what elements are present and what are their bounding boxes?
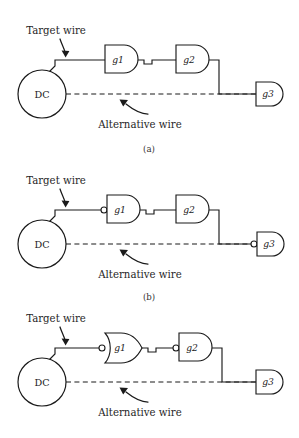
panel-b-dc-label: DC (34, 239, 49, 250)
panel-a: DC g1 g2 g3 Target wire Alternative wire (18, 25, 283, 154)
panel-c-dc-label: DC (34, 377, 49, 388)
panel-a-alternative-wire-arrow (126, 104, 148, 114)
panel-c-gate-g2-label: g2 (186, 342, 198, 353)
panel-b-alternative-wire-arrowhead (120, 250, 129, 257)
panel-b-gate-g3-label: g3 (263, 238, 275, 249)
panel-c-target-wire-label: Target wire (26, 313, 86, 324)
panel-b-gate-g3-input-bubble (251, 241, 257, 247)
panel-c-gate-g1-input-bubble (99, 345, 105, 351)
panel-a-gate-g1-label: g1 (112, 54, 124, 65)
figure-root: DC g1 g2 g3 Target wire Alternative wire (0, 0, 299, 438)
panel-a-wire-g2-g3 (209, 60, 256, 94)
panel-b-target-wire-label: Target wire (26, 175, 86, 186)
panel-b-gate-g2-label: g2 (183, 204, 195, 215)
panel-b-target-wire-arrow (60, 189, 65, 202)
panel-a-wire-g1-g2 (138, 60, 176, 64)
panel-c-gate-g2-input-bubble (173, 345, 179, 351)
panel-c-target-wire-arrow (60, 327, 65, 340)
panel-c-target-wire-arrowhead (62, 339, 70, 346)
panel-b-alternative-wire-arrow (126, 254, 148, 264)
panel-c-wire-g1-g2 (142, 348, 173, 352)
panel-a-alternative-wire-label: Alternative wire (97, 119, 182, 130)
panel-c-alternative-wire-arrow (126, 392, 148, 402)
panel-a-alternative-wire-arrowhead (120, 100, 129, 107)
panel-b-wire-g1-g2 (140, 210, 176, 214)
panel-b-target-wire (48, 210, 101, 223)
panel-a-target-wire (48, 60, 105, 73)
panel-a-gate-g3-label: g3 (262, 88, 274, 99)
panel-a-target-wire-arrowhead (62, 51, 70, 58)
panel-b-gate-g1-label: g1 (114, 204, 126, 215)
panel-c-alternative-wire-arrowhead (120, 388, 129, 395)
panel-c-alternative-wire-label: Alternative wire (97, 407, 182, 418)
circuit-figure-canvas: DC g1 g2 g3 Target wire Alternative wire (0, 0, 299, 438)
panel-a-target-wire-label: Target wire (26, 25, 86, 36)
panel-c-wire-g2-g3 (212, 348, 256, 382)
panel-b-alternative-wire-label: Alternative wire (97, 269, 182, 280)
panel-c-gate-g1-label: g1 (114, 342, 126, 353)
panel-b: DC g1 g2 g3 Target wire (18, 175, 284, 302)
panel-b-gate-g1-input-bubble (101, 207, 107, 213)
panel-c-gate-g3-label: g3 (262, 376, 274, 387)
panel-c-target-wire (48, 348, 99, 361)
panel-b-wire-g2-g3 (209, 210, 251, 244)
panel-a-dc-label: DC (34, 89, 49, 100)
panel-b-caption: (b) (143, 292, 155, 302)
panel-a-gate-g2-label: g2 (183, 54, 195, 65)
panel-c: DC g1 g2 g3 Target wire (18, 313, 283, 418)
panel-a-target-wire-arrow (60, 39, 65, 52)
panel-a-caption: (a) (143, 144, 155, 154)
panel-b-target-wire-arrowhead (62, 201, 70, 208)
